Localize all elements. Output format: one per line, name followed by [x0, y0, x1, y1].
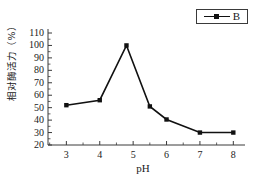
chart-figure: B 相对酶活力（%） pH 2030405060708090100110 345…: [0, 0, 261, 184]
y-tick-label: 50: [22, 103, 44, 113]
data-series: [64, 43, 235, 135]
axis-ticks: [48, 33, 233, 145]
y-tick-label: 90: [22, 53, 44, 63]
x-tick-label: 5: [125, 150, 141, 160]
y-tick-label: 40: [22, 115, 44, 125]
x-tick-label: 4: [92, 150, 108, 160]
y-tick-label: 60: [22, 90, 44, 100]
y-tick-label: 80: [22, 65, 44, 75]
y-tick-label: 70: [22, 78, 44, 88]
x-tick-label: 6: [159, 150, 175, 160]
y-tick-label: 20: [22, 140, 44, 150]
y-tick-label: 110: [22, 28, 44, 38]
x-tick-label: 3: [58, 150, 74, 160]
x-tick-label: 7: [192, 150, 208, 160]
y-tick-label: 30: [22, 128, 44, 138]
axes: [48, 29, 245, 145]
y-tick-label: 100: [22, 40, 44, 50]
x-tick-label: 8: [225, 150, 241, 160]
